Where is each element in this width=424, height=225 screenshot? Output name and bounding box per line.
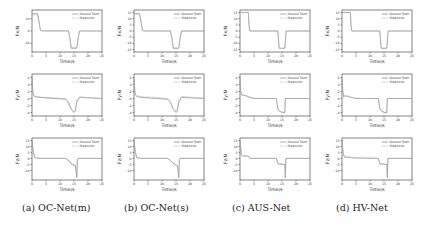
svg-text:-10: -10 bbox=[126, 169, 131, 173]
subplot-d-2: 0510152025-4-20246Time/sFy/NGround Truth… bbox=[314, 68, 418, 134]
svg-text:15: 15 bbox=[127, 11, 131, 15]
svg-text:Time/s: Time/s bbox=[266, 187, 283, 192]
svg-text:0: 0 bbox=[341, 118, 343, 122]
svg-text:25: 25 bbox=[410, 118, 414, 122]
svg-text:5: 5 bbox=[45, 118, 47, 122]
svg-text:-5: -5 bbox=[336, 35, 339, 39]
svg-text:Time/s: Time/s bbox=[58, 59, 75, 64]
svg-text:Time/s: Time/s bbox=[368, 187, 385, 192]
subplot-b-2: 0510152025-4-20246Time/sFy/NGround Truth… bbox=[106, 68, 210, 134]
svg-text:0: 0 bbox=[129, 29, 131, 33]
svg-text:5: 5 bbox=[235, 151, 237, 155]
svg-text:Fx/N: Fx/N bbox=[117, 26, 122, 36]
svg-text:Prediction: Prediction bbox=[288, 16, 303, 20]
svg-text:4: 4 bbox=[27, 83, 29, 87]
svg-text:10: 10 bbox=[25, 145, 29, 149]
svg-text:15: 15 bbox=[382, 54, 386, 58]
svg-text:5: 5 bbox=[253, 118, 255, 122]
svg-text:15: 15 bbox=[335, 11, 339, 15]
svg-text:10: 10 bbox=[266, 54, 270, 58]
svg-text:15: 15 bbox=[174, 54, 178, 58]
svg-text:-4: -4 bbox=[336, 111, 339, 115]
svg-text:20: 20 bbox=[294, 182, 298, 186]
svg-text:0: 0 bbox=[337, 97, 339, 101]
svg-text:6: 6 bbox=[337, 76, 339, 80]
svg-text:-15: -15 bbox=[126, 48, 131, 52]
svg-text:5: 5 bbox=[147, 54, 149, 58]
svg-text:15: 15 bbox=[233, 11, 237, 15]
svg-text:Fz/N: Fz/N bbox=[223, 154, 228, 164]
svg-text:0: 0 bbox=[129, 97, 131, 101]
svg-text:25: 25 bbox=[202, 54, 206, 58]
svg-text:2: 2 bbox=[129, 90, 131, 94]
svg-text:2: 2 bbox=[27, 90, 29, 94]
svg-text:Time/s: Time/s bbox=[160, 187, 177, 192]
svg-text:Prediction: Prediction bbox=[80, 16, 95, 20]
svg-text:Time/s: Time/s bbox=[266, 59, 283, 64]
svg-text:Fz/N: Fz/N bbox=[325, 154, 330, 164]
svg-text:20: 20 bbox=[396, 118, 400, 122]
svg-text:20: 20 bbox=[188, 182, 192, 186]
svg-text:-10: -10 bbox=[232, 41, 237, 45]
svg-text:Fy/N: Fy/N bbox=[15, 90, 20, 100]
svg-text:Time/s: Time/s bbox=[368, 123, 385, 128]
svg-text:15: 15 bbox=[174, 118, 178, 122]
svg-text:0: 0 bbox=[133, 118, 135, 122]
svg-text:-10: -10 bbox=[24, 41, 29, 45]
svg-text:-2: -2 bbox=[26, 104, 29, 108]
svg-text:15: 15 bbox=[280, 182, 284, 186]
svg-text:-10: -10 bbox=[126, 41, 131, 45]
svg-text:Fx/N: Fx/N bbox=[223, 26, 228, 36]
svg-text:Prediction: Prediction bbox=[288, 144, 303, 148]
svg-text:15: 15 bbox=[233, 139, 237, 143]
svg-text:10: 10 bbox=[233, 145, 237, 149]
subplot-c-2: 0510152025-4-20246Time/sFy/NGround Truth… bbox=[212, 68, 316, 134]
svg-text:25: 25 bbox=[410, 54, 414, 58]
svg-text:25: 25 bbox=[100, 182, 104, 186]
svg-text:4: 4 bbox=[129, 83, 131, 87]
svg-text:0: 0 bbox=[239, 182, 241, 186]
svg-text:Fy/N: Fy/N bbox=[223, 90, 228, 100]
svg-text:-5: -5 bbox=[234, 163, 237, 167]
svg-text:25: 25 bbox=[308, 182, 312, 186]
svg-text:20: 20 bbox=[396, 54, 400, 58]
svg-text:Time/s: Time/s bbox=[368, 59, 385, 64]
svg-text:10: 10 bbox=[368, 54, 372, 58]
svg-text:Time/s: Time/s bbox=[266, 123, 283, 128]
svg-text:15: 15 bbox=[72, 54, 76, 58]
subplot-d-3: 0510152025-10-5051015Time/sFz/NGround Tr… bbox=[314, 132, 418, 198]
svg-text:10: 10 bbox=[335, 145, 339, 149]
svg-text:-15: -15 bbox=[232, 48, 237, 52]
svg-text:10: 10 bbox=[160, 118, 164, 122]
svg-text:0: 0 bbox=[337, 29, 339, 33]
svg-text:-5: -5 bbox=[128, 35, 131, 39]
svg-text:10: 10 bbox=[58, 182, 62, 186]
svg-text:-2: -2 bbox=[128, 104, 131, 108]
svg-text:Prediction: Prediction bbox=[288, 80, 303, 84]
svg-text:6: 6 bbox=[235, 76, 237, 80]
svg-text:10: 10 bbox=[127, 145, 131, 149]
svg-text:-10: -10 bbox=[334, 169, 339, 173]
svg-text:5: 5 bbox=[355, 54, 357, 58]
svg-text:20: 20 bbox=[188, 118, 192, 122]
svg-text:Fz/N: Fz/N bbox=[117, 154, 122, 164]
subplot-d-1: 0510152025-15-10-5051015Time/sFx/NGround… bbox=[314, 4, 418, 70]
svg-text:15: 15 bbox=[382, 118, 386, 122]
svg-text:0: 0 bbox=[27, 97, 29, 101]
svg-text:15: 15 bbox=[25, 139, 29, 143]
svg-text:25: 25 bbox=[100, 54, 104, 58]
subplot-a-3: 0510152025-10-5051015Time/sFz/NGround Tr… bbox=[4, 132, 108, 198]
svg-text:Prediction: Prediction bbox=[80, 144, 95, 148]
svg-text:0: 0 bbox=[133, 54, 135, 58]
svg-text:0: 0 bbox=[235, 29, 237, 33]
svg-text:-5: -5 bbox=[234, 35, 237, 39]
svg-text:0: 0 bbox=[31, 54, 33, 58]
svg-text:0: 0 bbox=[239, 118, 241, 122]
svg-text:5: 5 bbox=[147, 182, 149, 186]
svg-text:Prediction: Prediction bbox=[390, 144, 405, 148]
svg-text:Time/s: Time/s bbox=[160, 59, 177, 64]
svg-text:0: 0 bbox=[235, 97, 237, 101]
svg-text:-4: -4 bbox=[234, 111, 237, 115]
svg-text:Prediction: Prediction bbox=[80, 80, 95, 84]
svg-text:-2: -2 bbox=[234, 104, 237, 108]
